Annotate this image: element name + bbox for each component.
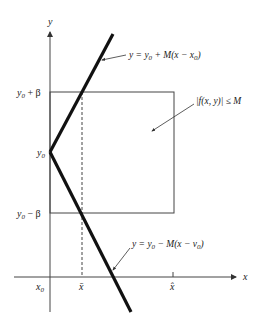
lower-bound-line bbox=[50, 152, 131, 312]
upper-label-pointer bbox=[102, 55, 126, 60]
lipschitz-cone-diagram: y x y0 + β y0 y0 − β x0 x̄ x̂ y = y0 + M… bbox=[0, 0, 263, 325]
x-tick-x0: x0 bbox=[35, 281, 44, 294]
region-bound-label: |f(x, y)| ≤ M bbox=[196, 96, 242, 107]
x-tick-x-hat: x̂ bbox=[169, 281, 175, 292]
y-tick-y0-plus-beta: y0 + β bbox=[16, 87, 41, 100]
y-tick-y0: y0 bbox=[36, 147, 45, 160]
x-tick-x-bar: x̄ bbox=[78, 281, 84, 292]
lower-label-pointer bbox=[113, 248, 130, 270]
y-axis-label: y bbox=[47, 16, 53, 27]
x-axis-label: x bbox=[242, 271, 248, 282]
bounding-rectangle bbox=[50, 92, 174, 213]
lower-line-equation: y = y0 − M(x − v0) bbox=[131, 239, 204, 251]
y-tick-y0-minus-beta: y0 − β bbox=[16, 208, 41, 221]
region-label-pointer bbox=[152, 104, 194, 131]
upper-line-equation: y = y0 + M(x − x0) bbox=[128, 50, 201, 62]
